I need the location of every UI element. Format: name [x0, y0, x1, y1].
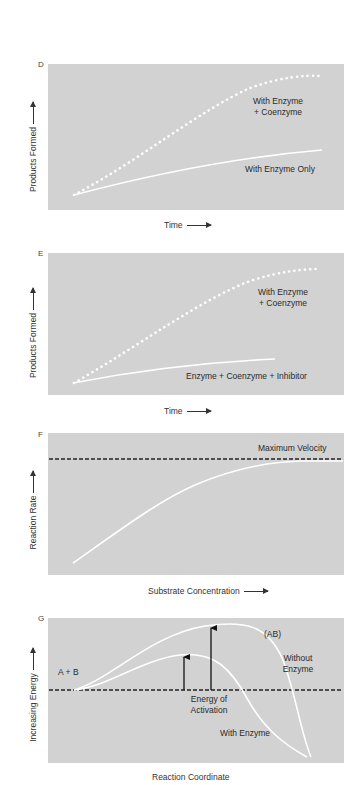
label-line-2: Enzyme — [278, 664, 318, 675]
label-ab-complex: (AB) — [264, 629, 281, 640]
label-energy-of-activation: Energy of Activation — [178, 694, 240, 716]
label-a-plus-b: A + B — [58, 667, 79, 678]
label-line-2: Activation — [178, 705, 240, 716]
label-without-enzyme: Without Enzyme — [278, 653, 318, 675]
label-with-enzyme: With Enzyme — [220, 728, 270, 739]
label-line-1: Energy of — [178, 694, 240, 705]
label-line-1: Without — [278, 653, 318, 664]
